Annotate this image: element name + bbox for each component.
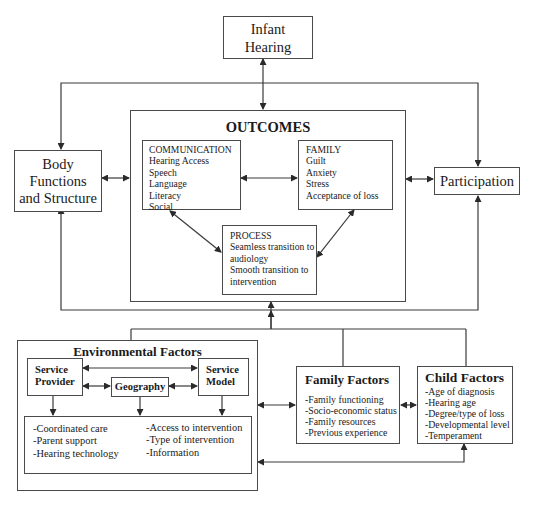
- environmental-item: -Parent support: [33, 435, 119, 447]
- process-item: Seamless transition to: [230, 241, 316, 252]
- service-model-box: Service Model: [198, 358, 249, 396]
- environmental-item: -Information: [146, 447, 242, 459]
- environmental-item: -Coordinated care: [33, 423, 119, 435]
- infant-hearing-line-2: Hearing: [224, 38, 312, 56]
- communication-item: Hearing Access: [149, 155, 240, 166]
- family-factors-title: Family Factors: [305, 372, 399, 387]
- infant-hearing-line-1: Infant: [224, 20, 312, 38]
- family-item: Guilt: [306, 155, 392, 166]
- family-factor-item: -Previous experience: [305, 427, 399, 438]
- family-factors-list: -Family functioning -Socio-economic stat…: [305, 394, 399, 438]
- child-factor-item: -Degree/type of loss: [425, 408, 512, 419]
- process-item: Smooth transition to: [230, 264, 316, 275]
- child-factor-item: -Age of diagnosis: [425, 386, 512, 397]
- child-factor-item: -Temperament: [425, 430, 512, 441]
- family-item: Acceptance of loss: [306, 190, 392, 201]
- communication-item: Social: [149, 201, 240, 212]
- geography-label: Geography: [115, 381, 166, 392]
- environmental-right-list: -Access to intervention -Type of interve…: [146, 422, 242, 459]
- communication-heading: COMMUNICATION: [149, 144, 240, 155]
- environmental-item: -Type of intervention: [146, 434, 242, 446]
- body-line-1: Body: [15, 156, 101, 173]
- service-provider-line-1: Service: [35, 364, 82, 376]
- process-item: intervention: [230, 276, 316, 287]
- environmental-left-list: -Coordinated care -Parent support -Heari…: [33, 423, 119, 460]
- service-model-line-1: Service: [206, 364, 248, 376]
- body-line-3: and Structure: [15, 190, 101, 207]
- communication-item: Speech: [149, 167, 240, 178]
- participation-box: Participation: [434, 167, 520, 195]
- child-factors-box: Child Factors -Age of diagnosis -Hearing…: [417, 366, 513, 444]
- environmental-list-box: -Coordinated care -Parent support -Heari…: [24, 416, 252, 474]
- family-item: Stress: [306, 178, 392, 189]
- outcomes-title: OUTCOMES: [131, 119, 405, 136]
- body-functions-box: Body Functions and Structure: [14, 150, 102, 212]
- process-box: PROCESS Seamless transition to audiology…: [222, 225, 317, 295]
- communication-item: Language: [149, 178, 240, 189]
- process-item: audiology: [230, 253, 316, 264]
- service-model-line-2: Model: [206, 376, 248, 388]
- child-factor-item: -Developmental level: [425, 419, 512, 430]
- family-factor-item: -Socio-economic status: [305, 405, 399, 416]
- child-factor-item: -Hearing age: [425, 397, 512, 408]
- communication-box: COMMUNICATION Hearing Access Speech Lang…: [142, 140, 241, 210]
- communication-item: Literacy: [149, 190, 240, 201]
- child-factors-title: Child Factors: [425, 370, 512, 385]
- family-factor-item: -Family functioning: [305, 394, 399, 405]
- family-outcome-box: FAMILY Guilt Anxiety Stress Acceptance o…: [298, 140, 393, 210]
- environmental-item: -Hearing technology: [33, 448, 119, 460]
- process-heading: PROCESS: [230, 230, 316, 241]
- family-item: Anxiety: [306, 167, 392, 178]
- environmental-item: -Access to intervention: [146, 422, 242, 434]
- family-heading: FAMILY: [306, 144, 392, 155]
- service-provider-box: Service Provider: [27, 358, 83, 396]
- family-factors-box: Family Factors -Family functioning -Soci…: [296, 366, 400, 444]
- family-factor-item: -Family resources: [305, 416, 399, 427]
- geography-box: Geography: [111, 377, 169, 397]
- child-factors-list: -Age of diagnosis -Hearing age -Degree/t…: [425, 386, 512, 441]
- child-env-arrow: [258, 444, 464, 462]
- participation-label: Participation: [440, 173, 514, 189]
- service-provider-line-2: Provider: [35, 376, 82, 388]
- infant-hearing-box: Infant Hearing: [223, 16, 313, 59]
- body-line-2: Functions: [15, 173, 101, 190]
